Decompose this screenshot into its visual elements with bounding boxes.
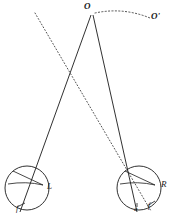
right-eye-limbus-arc [120, 183, 155, 185]
right-eye-circle [117, 166, 161, 210]
label-right-point-a: a [134, 206, 138, 213]
label-apex-o-prime: Oʹ [151, 12, 160, 21]
visual-axis-left-line [20, 15, 91, 212]
figure-container: O Oʹ L R f a f [0, 0, 178, 220]
left-eye-circle [5, 166, 49, 210]
label-right-eye: R [161, 180, 167, 189]
label-right-fovea: f [148, 202, 150, 210]
deviated-axis-dotted-line [35, 13, 151, 211]
label-apex-o: O [84, 2, 91, 11]
apex-to-apex-prime-arc [95, 11, 150, 18]
diagram-canvas [0, 0, 178, 220]
label-left-eye: L [47, 182, 52, 191]
left-eye-limbus-arc [8, 183, 43, 185]
label-left-fovea: f [16, 205, 18, 213]
